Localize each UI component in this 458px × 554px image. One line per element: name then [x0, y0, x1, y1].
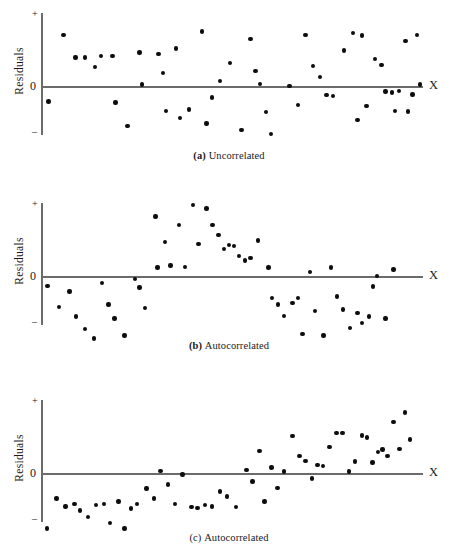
data-point — [135, 502, 139, 506]
panel-b-x-axis — [41, 276, 423, 278]
data-point — [397, 89, 401, 93]
data-point — [355, 118, 359, 122]
data-point — [164, 109, 168, 113]
panel-c-caption-text: Autocorrelated — [204, 532, 268, 543]
data-point — [163, 240, 167, 244]
data-point — [110, 54, 114, 58]
panel-c: Residuals + 0 – X (c) Autocorrelated — [0, 370, 458, 554]
panel-c-caption-prefix: (c) — [189, 532, 201, 543]
data-point — [282, 314, 286, 318]
data-point — [158, 469, 162, 473]
data-point — [253, 69, 257, 73]
data-point — [334, 431, 338, 435]
data-point — [244, 468, 248, 472]
data-point — [144, 486, 148, 490]
data-point — [174, 46, 178, 50]
data-point — [341, 307, 345, 311]
data-point — [57, 305, 61, 309]
data-point — [100, 281, 104, 285]
data-point — [189, 505, 193, 509]
data-point — [72, 502, 76, 506]
data-point — [222, 247, 226, 251]
data-point — [313, 309, 317, 313]
data-point — [342, 48, 346, 52]
panel-a-x-axis — [41, 86, 423, 88]
data-point — [225, 494, 229, 498]
data-point — [86, 515, 90, 519]
data-point — [237, 254, 241, 258]
panel-b-tick-plus: + — [32, 198, 38, 209]
data-point — [112, 316, 116, 320]
data-point — [256, 238, 260, 242]
panel-a-tick-plus: + — [32, 8, 38, 19]
data-point — [129, 506, 133, 510]
data-point — [270, 296, 274, 300]
data-point — [94, 503, 98, 507]
data-point — [140, 82, 144, 86]
data-point — [383, 316, 387, 320]
data-point — [390, 90, 394, 94]
panel-c-tick-minus: – — [32, 513, 37, 524]
data-point — [353, 459, 357, 463]
data-point — [177, 223, 181, 227]
panel-a-y-axis-label: Residuals — [13, 35, 25, 107]
data-point — [210, 95, 214, 99]
data-point — [54, 496, 58, 500]
data-point — [311, 64, 315, 68]
data-point — [183, 265, 187, 269]
data-point — [335, 294, 339, 298]
data-point — [391, 267, 395, 271]
panel-c-caption: (c) Autocorrelated — [0, 532, 458, 543]
data-point — [243, 258, 247, 262]
data-point — [321, 464, 325, 468]
data-point — [232, 244, 236, 248]
data-point — [203, 503, 207, 507]
data-point — [347, 469, 351, 473]
data-point — [290, 434, 294, 438]
data-point — [73, 55, 77, 59]
panel-a-y-axis — [41, 13, 43, 135]
panel-b-x-axis-label: X — [429, 268, 438, 283]
panel-b-y-axis-label: Residuals — [13, 225, 25, 297]
data-point — [61, 33, 65, 37]
data-point — [227, 243, 231, 247]
data-point — [308, 270, 312, 274]
data-point — [287, 84, 291, 88]
data-point — [397, 447, 401, 451]
data-point — [191, 203, 195, 207]
data-point — [122, 333, 126, 337]
panel-c-x-axis-label: X — [429, 465, 438, 480]
panel-c-y-axis-label: Residuals — [13, 422, 25, 494]
panel-a: Residuals + 0 – X (a) Uncorrelated — [0, 0, 458, 185]
data-point — [67, 289, 71, 293]
data-point — [269, 465, 273, 469]
residual-plots-figure: Residuals + 0 – X (a) Uncorrelated Resid… — [0, 0, 458, 554]
panel-b-caption-text: Autocorrelated — [205, 340, 269, 351]
data-point — [74, 314, 78, 318]
data-point — [234, 505, 238, 509]
data-point — [371, 284, 375, 288]
data-point — [106, 302, 110, 306]
data-point — [296, 103, 300, 107]
data-point — [216, 233, 220, 237]
data-point — [178, 116, 182, 120]
data-point — [364, 104, 368, 108]
data-point — [408, 437, 412, 441]
data-point — [143, 306, 147, 310]
data-point — [161, 71, 165, 75]
panel-a-caption: (a) Uncorrelated — [0, 150, 458, 161]
data-point — [360, 33, 364, 37]
data-point — [266, 265, 270, 269]
data-point — [152, 496, 156, 500]
data-point — [187, 107, 191, 111]
data-point — [324, 93, 328, 97]
data-point — [46, 99, 50, 103]
data-point — [340, 431, 344, 435]
panel-a-tick-minus: – — [32, 126, 37, 137]
data-point — [391, 420, 395, 424]
data-point — [78, 508, 82, 512]
panel-b: Residuals + 0 – X (b) Autocorrelated — [0, 185, 458, 370]
panel-b-caption-prefix: (b) — [189, 340, 202, 351]
data-point — [348, 326, 352, 330]
data-point — [403, 410, 407, 414]
